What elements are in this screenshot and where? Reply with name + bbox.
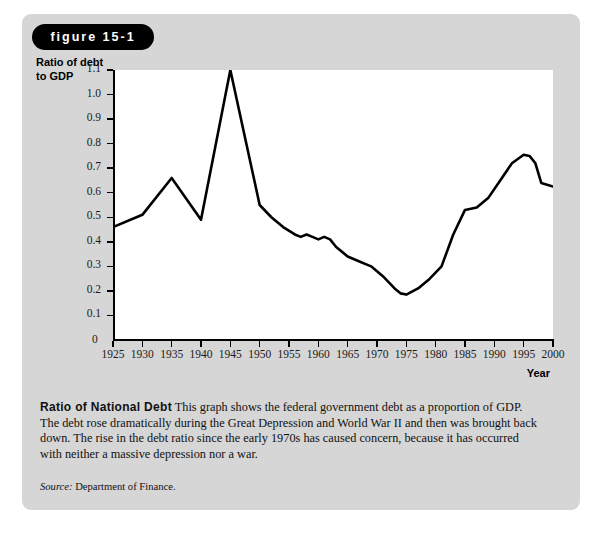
- x-axis-tick: [142, 341, 144, 347]
- figure-caption: Ratio of National Debt This graph shows …: [40, 400, 540, 462]
- x-axis-tick: [435, 341, 437, 347]
- y-axis-tick: [107, 217, 113, 219]
- y-axis-title-line2: to GDP: [36, 70, 73, 82]
- x-axis-tick: [523, 341, 525, 347]
- x-axis-title: Year: [500, 367, 550, 379]
- debt-ratio-series-line: [113, 70, 553, 295]
- y-axis-tick-label: 0.5: [71, 209, 101, 221]
- x-axis-tick: [259, 341, 261, 347]
- x-axis-tick: [112, 341, 114, 347]
- y-axis-tick: [107, 118, 113, 120]
- y-axis-tick-label: 0.4: [71, 234, 101, 246]
- y-axis-tick: [107, 290, 113, 292]
- y-axis-tick: [107, 69, 113, 71]
- figure-source: Source: Department of Finance.: [40, 481, 176, 492]
- x-axis-tick: [494, 341, 496, 347]
- source-prefix: Source:: [40, 481, 73, 492]
- x-axis-tick: [552, 341, 554, 347]
- y-axis-zero-label: 0: [92, 333, 98, 345]
- x-axis-tick: [318, 341, 320, 347]
- y-axis-tick: [107, 167, 113, 169]
- y-axis-tick-label: 0.6: [71, 185, 101, 197]
- y-axis-tick: [107, 94, 113, 96]
- x-axis-tick-label: 2000: [533, 348, 573, 360]
- y-axis-tick-label: 0.2: [71, 283, 101, 295]
- caption-heading: Ratio of National Debt: [40, 400, 172, 414]
- x-axis-tick: [171, 341, 173, 347]
- y-axis-tick: [107, 315, 113, 317]
- y-axis-tick-label: 0.9: [71, 111, 101, 123]
- y-axis-tick-label: 1.0: [71, 87, 101, 99]
- x-axis-tick: [464, 341, 466, 347]
- y-axis-tick-label: 0.3: [71, 258, 101, 270]
- chart-plot-area: [113, 70, 553, 340]
- debt-ratio-line-chart: [113, 70, 553, 340]
- y-axis-tick: [107, 241, 113, 243]
- y-axis-tick: [107, 192, 113, 194]
- y-axis-tick-label: 0.1: [71, 307, 101, 319]
- y-axis-tick: [107, 143, 113, 145]
- x-axis-tick: [230, 341, 232, 347]
- x-axis-tick: [347, 341, 349, 347]
- y-axis-tick-label: 0.7: [71, 160, 101, 172]
- y-axis-tick-label: 0.8: [71, 136, 101, 148]
- figure-page: figure 15-1 Ratio of debt to GDP 1.11.00…: [0, 0, 602, 536]
- y-axis-line: [113, 70, 115, 341]
- x-axis-tick: [288, 341, 290, 347]
- x-axis-tick: [406, 341, 408, 347]
- x-axis-tick: [200, 341, 202, 347]
- x-axis-tick: [376, 341, 378, 347]
- x-axis-line: [113, 339, 554, 341]
- source-text: Department of Finance.: [75, 481, 175, 492]
- y-axis-tick-label: 1.1: [71, 62, 101, 74]
- y-axis-tick: [107, 266, 113, 268]
